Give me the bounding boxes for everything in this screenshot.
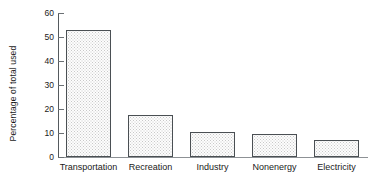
y-tick-mark <box>58 109 64 110</box>
category-label: Electricity <box>317 163 356 172</box>
bar <box>190 132 235 157</box>
y-tick-mark <box>58 61 64 62</box>
y-tick-label: 40 <box>45 57 54 66</box>
category-label: Industry <box>196 163 228 172</box>
x-axis-line <box>58 157 368 158</box>
y-tick-label: 20 <box>45 105 54 114</box>
y-tick-mark <box>58 37 64 38</box>
y-tick-label: 60 <box>45 9 54 18</box>
bar <box>128 115 173 157</box>
y-axis-title: Percentage of total used <box>0 0 26 187</box>
bar-chart: Percentage of total used 0102030405060 T… <box>0 0 375 187</box>
bar <box>314 140 359 157</box>
y-tick-label: 10 <box>45 129 54 138</box>
y-tick-mark <box>58 13 64 14</box>
y-tick-label: 0 <box>49 153 54 162</box>
plot-area: 0102030405060 TransportationRecreationIn… <box>58 13 368 157</box>
y-tick-mark <box>58 85 64 86</box>
category-label: Nonenergy <box>252 163 296 172</box>
bar <box>252 134 297 157</box>
y-tick-mark <box>58 157 64 158</box>
y-tick-label: 50 <box>45 33 54 42</box>
category-label: Transportation <box>60 163 118 172</box>
bar <box>66 30 111 157</box>
y-tick-mark <box>58 133 64 134</box>
y-tick-label: 30 <box>45 81 54 90</box>
category-label: Recreation <box>129 163 173 172</box>
